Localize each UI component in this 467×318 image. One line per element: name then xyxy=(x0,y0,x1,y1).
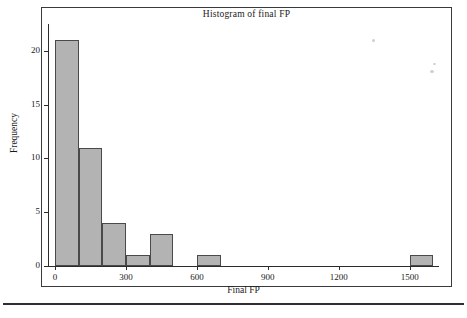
scan-speck xyxy=(372,39,375,42)
histogram-bar xyxy=(126,255,150,266)
page-bottom-rule xyxy=(3,303,464,305)
y-axis-tick xyxy=(44,266,48,267)
x-axis-tick-label: 900 xyxy=(248,272,288,282)
x-axis-tick-label: 600 xyxy=(177,272,217,282)
x-axis-tick-label: 1200 xyxy=(319,272,359,282)
x-axis-label: Final FP xyxy=(48,285,439,295)
y-axis-tick xyxy=(44,212,48,213)
y-axis-tick-label: 15 xyxy=(16,99,40,109)
y-axis-tick xyxy=(44,51,48,52)
y-axis-tick-label: 10 xyxy=(16,152,40,162)
histogram-bar xyxy=(55,40,79,266)
scan-speck xyxy=(433,63,436,65)
y-axis-tick-label: 20 xyxy=(16,45,40,55)
x-axis-tick-label: 0 xyxy=(35,272,75,282)
histogram-bar xyxy=(410,255,434,266)
x-axis-tick xyxy=(126,266,127,270)
plot-area xyxy=(48,24,438,266)
x-axis-tick xyxy=(268,266,269,270)
histogram-bar xyxy=(102,223,126,266)
y-axis-tick xyxy=(44,105,48,106)
x-axis-tick xyxy=(55,266,56,270)
chart-title: Histogram of final FP xyxy=(41,9,452,19)
scan-speck xyxy=(430,70,434,73)
x-axis-tick xyxy=(339,266,340,270)
x-axis-tick-label: 1500 xyxy=(390,272,430,282)
y-axis-tick-label: 0 xyxy=(16,260,40,270)
y-axis-tick-label: 5 xyxy=(16,206,40,216)
histogram-bar xyxy=(150,234,174,266)
x-axis-line xyxy=(48,266,439,267)
x-axis-tick xyxy=(197,266,198,270)
x-axis-tick-label: 300 xyxy=(106,272,146,282)
histogram-bar xyxy=(197,255,221,266)
histogram-bar xyxy=(79,148,103,266)
y-axis-tick xyxy=(44,158,48,159)
chart-page: Histogram of final FP Final FP Frequency… xyxy=(0,0,467,318)
x-axis-tick xyxy=(410,266,411,270)
